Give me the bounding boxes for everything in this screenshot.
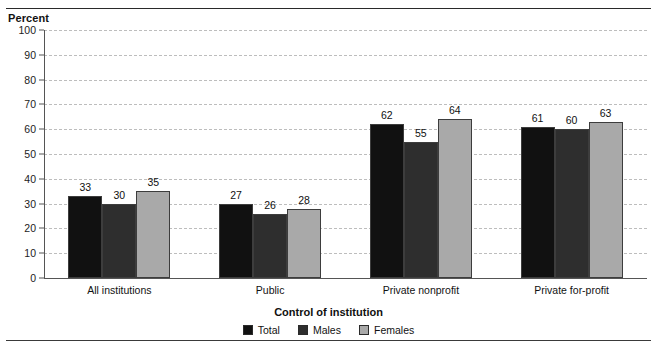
- category-label: All institutions: [87, 284, 151, 296]
- bar-value-label: 33: [80, 181, 92, 193]
- y-axis-tick-label: 100: [0, 24, 36, 36]
- legend-label: Males: [313, 324, 341, 336]
- x-axis-line: [44, 278, 647, 279]
- bar-females: [287, 209, 321, 278]
- bar-value-label: 63: [600, 107, 612, 119]
- bar-total: [521, 127, 555, 278]
- bottom-divider-rule: [6, 340, 651, 341]
- bar-males: [555, 129, 589, 278]
- bar-value-label: 61: [532, 112, 544, 124]
- y-axis-tick-label: 0: [0, 272, 36, 284]
- bar-value-label: 62: [381, 109, 393, 121]
- legend-item-total: Total: [243, 324, 280, 336]
- bar-males: [404, 142, 438, 278]
- bar-group: 625564: [370, 30, 472, 278]
- bar-males: [102, 204, 136, 278]
- y-axis-tick-label: 90: [0, 49, 36, 61]
- bar-females: [589, 122, 623, 278]
- bar-group: 333035: [68, 30, 170, 278]
- legend-label: Total: [258, 324, 280, 336]
- legend-swatch-icon: [243, 325, 253, 335]
- bar-group: 272628: [219, 30, 321, 278]
- bar-value-label: 64: [449, 104, 461, 116]
- chart-figure: Percent 1009080706050403020100 333035272…: [0, 0, 657, 346]
- legend-item-females: Females: [359, 324, 414, 336]
- bar-females: [136, 191, 170, 278]
- bar-value-label: 26: [264, 199, 276, 211]
- bar-total: [219, 204, 253, 278]
- bar-value-label: 27: [230, 189, 242, 201]
- legend-item-males: Males: [298, 324, 341, 336]
- bars-layer: 333035272628625564616063: [44, 30, 647, 278]
- bar-group: 616063: [521, 30, 623, 278]
- bar-value-label: 30: [114, 189, 126, 201]
- bar-value-label: 60: [566, 114, 578, 126]
- y-axis-tick-label: 20: [0, 222, 36, 234]
- y-axis-tick-label: 40: [0, 173, 36, 185]
- y-axis-tick-label: 10: [0, 247, 36, 259]
- legend-label: Females: [374, 324, 414, 336]
- category-label: Public: [256, 284, 285, 296]
- legend-swatch-icon: [298, 325, 308, 335]
- top-divider-rule: [6, 8, 651, 9]
- y-axis-tick-label: 80: [0, 74, 36, 86]
- bar-females: [438, 119, 472, 278]
- chart-legend: TotalMalesFemales: [0, 324, 657, 336]
- y-axis-tick-label: 50: [0, 148, 36, 160]
- legend-swatch-icon: [359, 325, 369, 335]
- y-axis-title: Percent: [8, 12, 49, 24]
- category-label: Private for-profit: [534, 284, 609, 296]
- category-label: Private nonprofit: [383, 284, 459, 296]
- bar-value-label: 35: [148, 176, 160, 188]
- bar-total: [370, 124, 404, 278]
- bar-value-label: 28: [298, 194, 310, 206]
- bar-males: [253, 214, 287, 278]
- x-axis-title: Control of institution: [0, 306, 657, 318]
- bar-value-label: 55: [415, 127, 427, 139]
- y-axis-tick-label: 30: [0, 198, 36, 210]
- y-axis-tick-label: 60: [0, 123, 36, 135]
- y-axis-tick-label: 70: [0, 98, 36, 110]
- bar-total: [68, 196, 102, 278]
